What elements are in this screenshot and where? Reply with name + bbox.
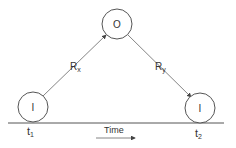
node-start: I — [18, 92, 48, 122]
node-end-label: I — [199, 103, 202, 114]
time-label-t1: t1 — [27, 125, 34, 138]
node-start-label: I — [32, 102, 35, 113]
diagram-canvas: I O I Rx Ry t1 t2 Time — [0, 0, 236, 148]
time-label-t2: t2 — [195, 127, 202, 140]
node-end: I — [185, 93, 215, 123]
node-other-label: O — [113, 19, 121, 30]
edge-rx-label: Rx — [70, 61, 81, 73]
node-other: O — [102, 9, 132, 39]
time-axis-label: Time — [104, 125, 124, 135]
edge-ry-label: Ry — [155, 61, 166, 74]
